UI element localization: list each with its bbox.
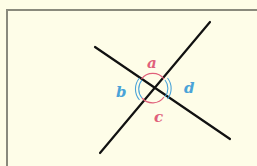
label-a: a — [147, 54, 157, 72]
angle-b-arc — [139, 80, 142, 98]
label-c: c — [154, 108, 163, 126]
label-b: b — [116, 83, 127, 101]
label-d: d — [184, 79, 195, 97]
angle-a-arc — [142, 73, 165, 79]
angles-diagram: a b c d — [0, 0, 257, 166]
